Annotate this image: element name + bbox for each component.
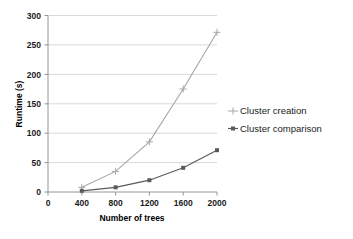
series-cluster-creation bbox=[78, 29, 220, 191]
x-tick-label-800: 800 bbox=[109, 198, 123, 208]
legend-item-cluster-comparison[interactable]: Cluster comparison bbox=[228, 123, 322, 134]
y-tick-label-200: 200 bbox=[27, 70, 41, 80]
y-axis-title: Runtime (s) bbox=[14, 80, 24, 127]
legend-label-cluster-comparison: Cluster comparison bbox=[240, 123, 322, 134]
chart-container: 300 250 200 150 100 50 0 0 400 800 1200 … bbox=[0, 0, 353, 239]
y-tick-label-50: 50 bbox=[32, 158, 42, 168]
x-axis-title: Number of trees bbox=[99, 213, 164, 223]
series-cluster-creation-line bbox=[82, 32, 217, 187]
y-tick-label-300: 300 bbox=[27, 11, 41, 21]
series-cluster-comparison-markers bbox=[80, 148, 219, 193]
gridlines bbox=[48, 16, 217, 163]
x-tickmarks bbox=[48, 192, 217, 196]
x-tick-label-1200: 1200 bbox=[140, 198, 159, 208]
series-cluster-creation-markers bbox=[78, 29, 220, 191]
x-tick-label-1600: 1600 bbox=[174, 198, 193, 208]
y-tick-label-250: 250 bbox=[27, 40, 41, 50]
legend-label-cluster-creation: Cluster creation bbox=[240, 105, 307, 116]
x-tick-label-2000: 2000 bbox=[208, 198, 227, 208]
y-tick-label-100: 100 bbox=[27, 128, 41, 138]
legend-item-cluster-creation[interactable]: Cluster creation bbox=[228, 105, 307, 116]
legend-marker-plus-icon bbox=[228, 108, 238, 115]
line-chart: 300 250 200 150 100 50 0 0 400 800 1200 … bbox=[0, 0, 353, 239]
x-tick-label-0: 0 bbox=[46, 198, 51, 208]
legend-marker-square-icon bbox=[231, 127, 235, 131]
y-tick-label-0: 0 bbox=[36, 187, 41, 197]
series-cluster-comparison bbox=[80, 148, 219, 193]
x-tick-label-400: 400 bbox=[75, 198, 89, 208]
chart-legend: Cluster creation Cluster comparison bbox=[228, 105, 322, 133]
y-tick-label-150: 150 bbox=[27, 99, 41, 109]
y-tickmarks bbox=[45, 16, 49, 193]
series-cluster-comparison-line bbox=[82, 150, 217, 191]
